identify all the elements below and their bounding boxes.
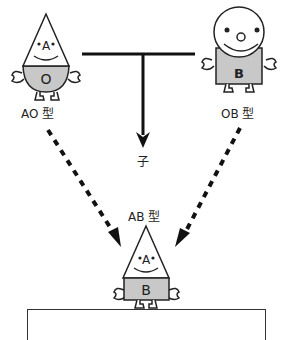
ob-type-label: OB 型 — [221, 104, 255, 121]
child-label: 子 — [137, 152, 149, 169]
ab-head-letter: A — [142, 253, 151, 267]
ab-body-letter: B — [141, 282, 151, 298]
ao-character-icon — [12, 14, 80, 100]
ob-body-letter: B — [234, 66, 244, 81]
ao-body-letter: O — [40, 71, 51, 87]
ab-type-label: AB 型 — [128, 207, 160, 224]
dashed-arrow-right — [175, 128, 240, 247]
ao-head-letter: A — [42, 39, 51, 53]
ao-type-label: AO 型 — [21, 104, 54, 121]
dashed-arrow-left — [48, 130, 121, 247]
bottom-panel-box — [27, 309, 266, 340]
mating-line — [82, 54, 195, 148]
